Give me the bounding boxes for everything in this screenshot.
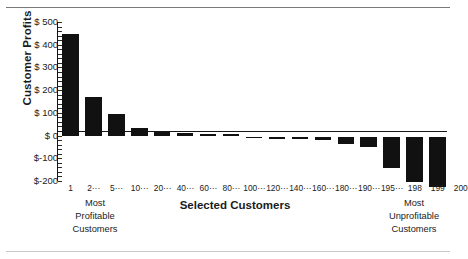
bar bbox=[131, 128, 148, 136]
x-tick-label: 2··· bbox=[87, 183, 100, 193]
x-axis-title: Selected Customers bbox=[150, 199, 320, 211]
x-tick-label: 200 bbox=[454, 183, 468, 193]
bar-series bbox=[57, 22, 447, 181]
y-axis-tick-labels: $ 500$ 400$ 300$ 200$ 100$ 0$-100$-200 bbox=[18, 0, 58, 259]
x-tick-label: 190··· bbox=[358, 183, 380, 193]
x-tick-label: 60··· bbox=[200, 183, 218, 193]
annotation-line: Customers bbox=[372, 223, 456, 236]
bar bbox=[338, 137, 355, 145]
annotation-most-unprofitable: MostUnprofitableCustomers bbox=[372, 197, 456, 237]
bar bbox=[108, 114, 125, 135]
bar bbox=[315, 137, 332, 140]
y-tick-label: $-100 bbox=[18, 152, 58, 163]
bar bbox=[200, 134, 217, 135]
y-tick-label: $ 300 bbox=[18, 61, 58, 72]
top-divider-rule bbox=[6, 7, 450, 8]
y-minor-tick bbox=[58, 181, 62, 182]
annotation-line: Unprofitable bbox=[372, 210, 456, 223]
x-tick-label: 40··· bbox=[177, 183, 195, 193]
annotation-line: Most bbox=[372, 197, 456, 210]
annotation-line: Profitable bbox=[55, 210, 135, 223]
bottom-divider-rule bbox=[6, 251, 450, 252]
bar bbox=[406, 137, 423, 182]
annotation-line: Most bbox=[55, 197, 135, 210]
x-tick-label: 199 bbox=[431, 183, 445, 193]
bar bbox=[383, 137, 400, 168]
x-tick-label: 198 bbox=[408, 183, 422, 193]
x-tick-label: 80··· bbox=[223, 183, 241, 193]
annotation-most-profitable: MostProfitableCustomers bbox=[55, 197, 135, 237]
y-tick-label: $ 100 bbox=[18, 107, 58, 118]
y-tick-label: $ 200 bbox=[18, 84, 58, 95]
bar bbox=[62, 34, 79, 135]
x-tick-label: 5··· bbox=[110, 183, 123, 193]
x-tick-label: 20··· bbox=[154, 183, 172, 193]
x-axis-tick-labels: 12···5···10···20···40···60···80···100···… bbox=[0, 183, 456, 197]
bar bbox=[223, 134, 240, 135]
x-tick-label: 10··· bbox=[131, 183, 149, 193]
x-tick-label: 1 bbox=[68, 183, 73, 193]
bar bbox=[429, 137, 446, 187]
bar bbox=[360, 137, 377, 147]
bar bbox=[246, 137, 263, 139]
bar bbox=[292, 137, 309, 139]
x-tick-label: 195··· bbox=[381, 183, 403, 193]
y-tick-label: $ 400 bbox=[18, 39, 58, 50]
x-tick-label: 100··· bbox=[243, 183, 265, 193]
bar bbox=[154, 132, 171, 135]
plot-area bbox=[57, 22, 447, 181]
y-tick-label: $ 500 bbox=[18, 16, 58, 27]
y-tick-label: $ 0 bbox=[18, 130, 58, 141]
x-tick-label: 120··· bbox=[266, 183, 288, 193]
x-tick-label: 140··· bbox=[289, 183, 311, 193]
x-tick-label: 160··· bbox=[312, 183, 334, 193]
bar bbox=[269, 137, 286, 139]
bar bbox=[85, 97, 102, 136]
bar bbox=[177, 133, 194, 135]
x-tick-label: 180··· bbox=[335, 183, 357, 193]
annotation-line: Customers bbox=[55, 223, 135, 236]
